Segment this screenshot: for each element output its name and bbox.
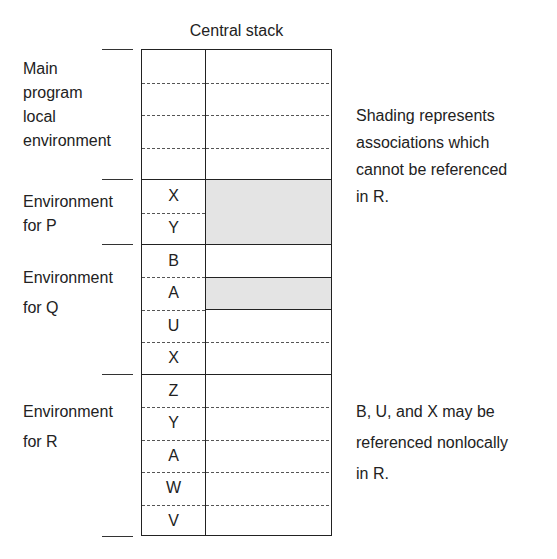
row-separator <box>206 148 329 149</box>
variable-name: X <box>142 180 205 213</box>
stack-row: Y <box>142 212 331 245</box>
stack-row: X <box>142 342 331 375</box>
variable-name: A <box>142 277 205 310</box>
stack-row: Z <box>142 375 331 408</box>
note-shading: Shading represents associations which ca… <box>356 102 556 210</box>
bracket-line <box>102 536 133 537</box>
stack-row: U <box>142 310 331 343</box>
stack-row: A <box>142 440 331 473</box>
stack-row: Y <box>142 407 331 440</box>
row-separator <box>142 148 205 149</box>
variable-name: Y <box>142 212 205 245</box>
diagram-title: Central stack <box>141 22 332 40</box>
bracket-line <box>102 179 133 180</box>
variable-name: A <box>142 440 205 473</box>
row-separator <box>206 115 329 116</box>
bracket-line <box>102 49 133 50</box>
env-label-q: Environment for Q <box>23 263 113 323</box>
variable-name: V <box>142 505 205 538</box>
variable-name: B <box>142 245 205 278</box>
variable-name: U <box>142 310 205 343</box>
stack-row: W <box>142 472 331 505</box>
env-label-main: Main program local environment <box>23 57 111 153</box>
env-label-p: Environment for P <box>23 190 113 238</box>
env-label-r: Environment for R <box>23 397 113 457</box>
bracket-line <box>102 374 133 375</box>
variable-name: X <box>142 342 205 375</box>
central-stack: X Y B A U X Z Y A W V <box>141 49 332 536</box>
row-separator <box>142 83 205 84</box>
stack-row: B <box>142 245 331 278</box>
variable-name: W <box>142 472 205 505</box>
row-separator <box>142 115 205 116</box>
bracket-line <box>102 244 133 245</box>
stack-row: A <box>142 277 331 310</box>
variable-name: Y <box>142 407 205 440</box>
note-nonlocal: B, U, and X may be referenced nonlocally… <box>356 396 556 489</box>
stack-row: X <box>142 180 331 213</box>
row-separator <box>206 83 329 84</box>
variable-name: Z <box>142 375 205 408</box>
stack-row: V <box>142 505 331 538</box>
